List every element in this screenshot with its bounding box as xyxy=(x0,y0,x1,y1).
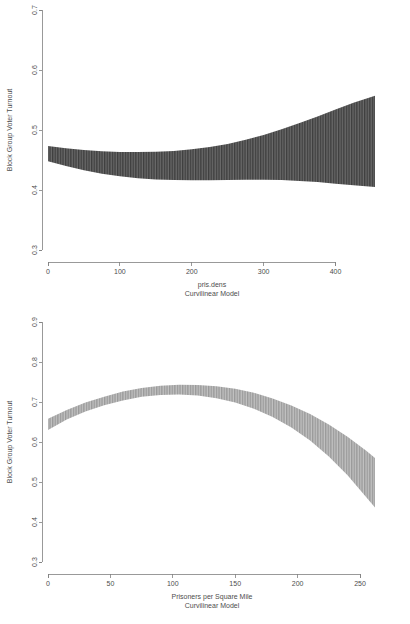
chart-1-y-tick-label: 0.7 xyxy=(31,5,38,15)
chart-1-x-axis-title: pris.dens xyxy=(198,281,227,289)
chart-2-x-tick-label: 0 xyxy=(46,580,50,587)
chart-2-svg: 0.30.40.50.60.70.80.9 050100150200250 Bl… xyxy=(0,312,410,624)
figure-page: 0.30.40.50.60.7 0100200300400 Block Grou… xyxy=(0,0,410,624)
chart-2-x-axis: 050100150200250 xyxy=(46,574,366,587)
chart-2-y-tick-label: 0.3 xyxy=(31,557,38,567)
chart-2-y-tick-label: 0.7 xyxy=(31,397,38,407)
chart-2-subtitle: Curvilinear Model xyxy=(185,602,240,609)
chart-1-y-tick-label: 0.3 xyxy=(31,245,38,255)
chart-2-x-tick-label: 150 xyxy=(229,580,241,587)
chart-1-y-tick-label: 0.6 xyxy=(31,65,38,75)
chart-2-confidence-band xyxy=(48,385,375,508)
chart-2-y-tick-label: 0.8 xyxy=(31,357,38,367)
chart-1-x-tick-label: 0 xyxy=(46,268,50,275)
chart-2-y-tick-label: 0.6 xyxy=(31,437,38,447)
chart-2-x-tick-label: 250 xyxy=(354,580,366,587)
chart-2-x-tick-label: 200 xyxy=(292,580,304,587)
chart-1-x-tick-label: 100 xyxy=(114,268,126,275)
chart-2-x-tick-label: 100 xyxy=(167,580,179,587)
chart-1-svg: 0.30.40.50.60.7 0100200300400 Block Grou… xyxy=(0,0,410,312)
chart-panel-pris-dens: 0.30.40.50.60.7 0100200300400 Block Grou… xyxy=(0,0,410,312)
chart-panel-prisoners-per-square-mile: 0.30.40.50.60.70.80.9 050100150200250 Bl… xyxy=(0,312,410,624)
chart-1-x-tick-label: 400 xyxy=(330,268,342,275)
chart-2-y-axis: 0.30.40.50.60.70.80.9 xyxy=(31,317,42,567)
chart-2-x-axis-title: Prisoners per Square Mile xyxy=(172,593,253,601)
chart-1-y-tick-label: 0.4 xyxy=(31,185,38,195)
chart-1-y-axis-title: Block Group Voter Turnout xyxy=(6,89,14,172)
chart-2-x-tick-label: 50 xyxy=(107,580,115,587)
chart-1-confidence-band xyxy=(48,96,375,187)
chart-1-x-tick-label: 200 xyxy=(186,268,198,275)
chart-1-x-tick-label: 300 xyxy=(258,268,270,275)
chart-1-subtitle: Curvilinear Model xyxy=(185,290,240,297)
chart-2-y-tick-label: 0.5 xyxy=(31,477,38,487)
chart-2-y-axis-title: Block Group Voter Turnout xyxy=(6,401,14,484)
chart-1-y-axis: 0.30.40.50.60.7 xyxy=(31,5,42,255)
chart-2-y-tick-label: 0.4 xyxy=(31,517,38,527)
chart-2-y-tick-label: 0.9 xyxy=(31,317,38,327)
chart-1-y-tick-label: 0.5 xyxy=(31,125,38,135)
chart-1-x-axis: 0100200300400 xyxy=(46,262,341,275)
